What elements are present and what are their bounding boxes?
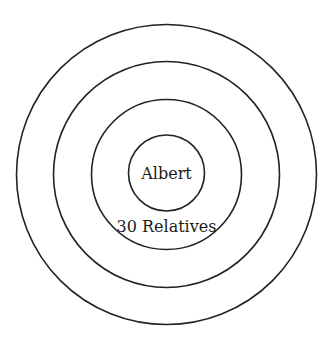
ring-label: 30 Relatives [117,217,217,236]
center-label: Albert [140,164,192,183]
concentric-circles-diagram: Albert 30 Relatives [0,0,330,345]
